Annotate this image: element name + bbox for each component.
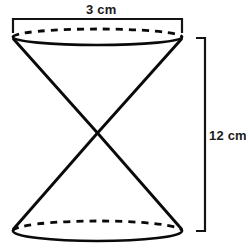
lower-cone-left-slant: [14, 133, 98, 229]
upper-cone-right-slant: [98, 39, 182, 133]
height-bracket-path: [196, 38, 205, 231]
height-label: 12 cm: [209, 129, 246, 142]
lower-rim-hidden-arc: [13, 221, 182, 231]
lower-cone: [13, 133, 182, 241]
diagram-canvas: [0, 0, 246, 246]
height-bracket: [196, 38, 205, 231]
upper-rim-hidden-arc: [13, 29, 182, 37]
lower-rim-front-arc: [13, 231, 182, 241]
upper-cone-left-slant: [14, 39, 98, 133]
diameter-label: 3 cm: [86, 3, 116, 16]
cone-diagram-figure: 3 cm 12 cm: [0, 0, 246, 246]
upper-cone: [13, 29, 182, 133]
upper-rim-front-arc: [13, 37, 182, 45]
lower-cone-right-slant: [98, 133, 182, 229]
